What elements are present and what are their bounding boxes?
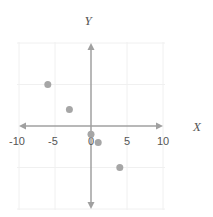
x-axis-left-arrow-icon [19,123,26,130]
data-point [44,81,51,88]
y-axis-up-arrow-icon [88,43,95,50]
x-tick-label: 5 [124,135,130,147]
data-point [88,131,95,138]
data-point [116,164,123,171]
data-point [66,106,73,113]
x-axis-label: X [192,119,202,134]
x-tick-label: 10 [157,135,169,147]
x-tick-label: -10 [9,135,25,147]
x-axis-right-arrow-icon [156,123,163,130]
y-axis-label: Y [84,13,93,28]
x-tick-label: -5 [48,135,58,147]
axes [19,43,163,209]
data-point [95,139,102,146]
y-axis-down-arrow-icon [88,202,95,209]
scatter-chart: -10-50510 Y X [0,0,213,217]
